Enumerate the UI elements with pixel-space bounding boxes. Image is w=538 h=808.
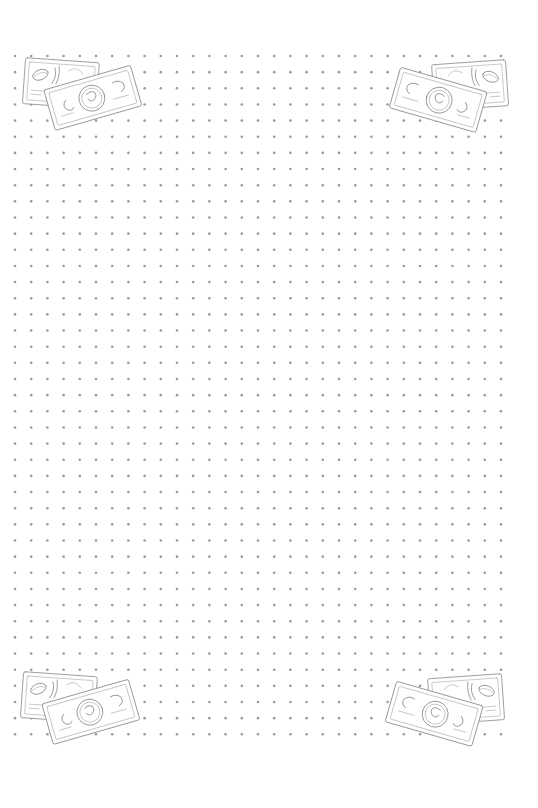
dot-grid-page	[0, 0, 538, 808]
banknotes-icon	[388, 56, 513, 121]
banknotes-icon	[384, 670, 509, 735]
money-bills-bottom-left	[16, 668, 141, 737]
money-bills-top-left	[18, 54, 143, 123]
money-bills-top-right	[388, 56, 513, 125]
banknotes-icon	[18, 54, 143, 119]
money-bills-bottom-right	[384, 670, 509, 739]
banknotes-icon	[16, 668, 141, 733]
